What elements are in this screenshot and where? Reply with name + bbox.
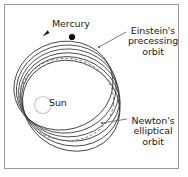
mercury-label: Mercury (52, 19, 90, 29)
precession-diagram: Mercury Sun Einstein's precessing orbit … (0, 0, 188, 177)
einstein-leader-line (98, 32, 126, 48)
einstein-label-line-2: precessing (126, 36, 180, 46)
newton-orbit-label: Newton's elliptical orbit (126, 116, 180, 147)
direction-arrow-icon (43, 30, 50, 36)
sun-label: Sun (49, 98, 67, 108)
einstein-orbit-label: Einstein's precessing orbit (126, 26, 180, 57)
newton-label-line-2: elliptical (126, 126, 180, 136)
newton-label-line-3: orbit (126, 137, 180, 147)
einstein-precessing-orbits (3, 30, 136, 169)
mercury-dot-icon (69, 34, 75, 40)
einstein-label-line-3: orbit (126, 47, 180, 57)
